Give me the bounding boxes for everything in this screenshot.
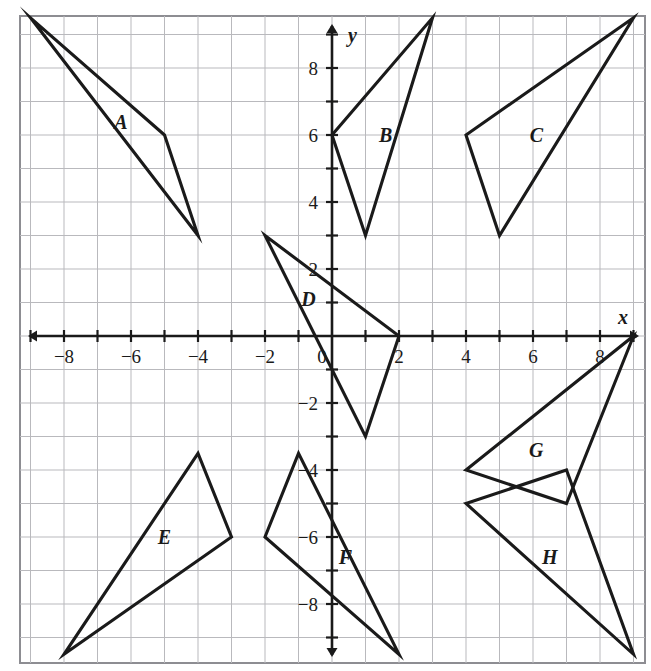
triangle-label-C: C [530, 124, 544, 146]
x-tick-label: −6 [121, 346, 141, 367]
triangle-label-H: H [541, 546, 559, 568]
y-tick-label: −2 [298, 393, 318, 414]
x-tick-label: −4 [188, 346, 209, 367]
triangle-label-B: B [378, 124, 392, 146]
triangle-label-E: E [157, 526, 171, 548]
triangle-label-G: G [529, 439, 544, 461]
triangle-label-D: D [300, 288, 315, 310]
x-tick-label: 4 [461, 346, 471, 367]
y-tick-label: 8 [309, 58, 319, 79]
triangle-label-A: A [112, 111, 127, 133]
y-tick-label: −8 [298, 594, 318, 615]
x-tick-label: 6 [528, 346, 538, 367]
y-tick-label: 6 [309, 125, 319, 146]
y-tick-label: −6 [298, 527, 318, 548]
x-axis-label: x [617, 306, 628, 328]
figure-page: −8−6−4−224688642−2−4−6−80 xy ABCDEFGH [0, 0, 651, 671]
x-tick-label: −8 [54, 346, 74, 367]
coordinate-plane-figure: −8−6−4−224688642−2−4−6−80 xy ABCDEFGH [0, 0, 651, 671]
y-axis-label: y [346, 24, 357, 47]
triangle-label-F: F [338, 546, 353, 568]
x-tick-label: −2 [255, 346, 275, 367]
y-tick-label: 4 [309, 192, 319, 213]
